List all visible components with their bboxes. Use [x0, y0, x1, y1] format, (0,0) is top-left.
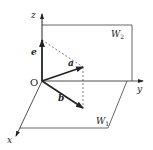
origin-label: O [30, 77, 38, 88]
plane-w1-label: W1 [96, 116, 109, 127]
plane-w1-outline [20, 81, 127, 128]
vector-e-label: e [31, 47, 37, 57]
plane-w2-subscript: 2 [120, 33, 124, 40]
vector-diagram: z y x O e a b W2 W1 [0, 0, 153, 150]
dashed-projection-e-a [42, 40, 83, 67]
y-axis-label: y [136, 84, 143, 94]
plane-w1-subscript: 1 [105, 120, 109, 127]
plane-w2-label: W2 [111, 29, 124, 40]
vector-b-label: b [58, 93, 64, 103]
vector-a [42, 67, 83, 81]
z-axis-label: z [30, 10, 36, 20]
vector-a-label: a [68, 58, 74, 68]
x-axis-label: x [7, 135, 12, 145]
